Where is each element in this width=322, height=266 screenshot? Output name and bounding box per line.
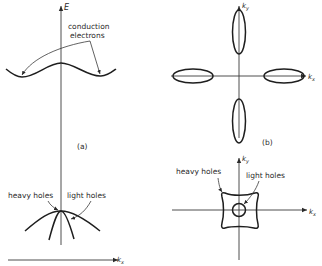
energy-axis-label: E [64, 3, 70, 12]
kx-axis-label-b-top: kx [308, 73, 315, 82]
panel-a: E conduction electrons (a) kx heavy hole… [6, 3, 124, 265]
conduction-label-line1: conduction [68, 22, 110, 31]
light-holes-band [49, 211, 74, 240]
light-holes-leader-a [71, 201, 91, 219]
kx-axis-label-a: kx [117, 256, 124, 265]
light-holes-label-a: light holes [67, 191, 106, 200]
panel-b-label: (b) [262, 138, 273, 147]
ky-axis-label-b-bottom: ky [242, 155, 250, 165]
heavy-holes-label-b: heavy holes [176, 167, 221, 176]
panel-b: kx ky (b) kx ky heavy holes light holes [171, 2, 316, 260]
heavy-holes-leader-b [218, 178, 222, 192]
kx-axis-label-b-bottom: kx [309, 208, 316, 217]
heavy-holes-contour [222, 193, 259, 229]
heavy-holes-label-a: heavy holes [8, 191, 53, 200]
light-holes-label-b: light holes [246, 171, 285, 180]
conduction-label-line2: electrons [70, 31, 105, 40]
panel-a-label: (a) [77, 142, 88, 151]
band-structure-figure: E conduction electrons (a) kx heavy hole… [0, 0, 322, 266]
heavy-holes-band [25, 211, 100, 231]
heavy-holes-leader-a [48, 201, 58, 210]
conduction-leader-right [90, 41, 100, 74]
ky-axis-label-b-top: ky [242, 2, 250, 12]
